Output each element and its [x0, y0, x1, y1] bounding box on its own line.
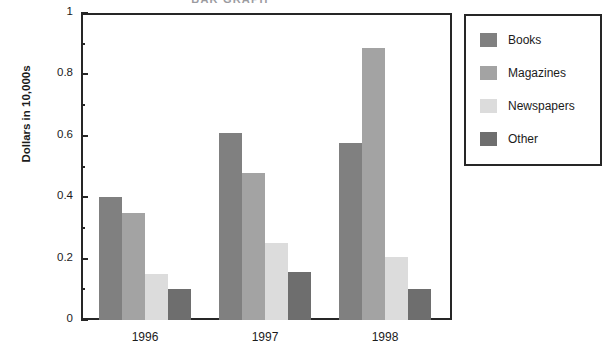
y-tick-label: 0.2	[29, 251, 73, 263]
bar	[219, 133, 242, 320]
y-tick-mark	[81, 258, 88, 260]
legend-item-label: Other	[508, 132, 538, 146]
y-axis-title: Dollars in 10,000s	[20, 34, 32, 194]
legend-swatch-icon	[480, 132, 497, 146]
bar	[99, 197, 122, 320]
legend-item-label: Magazines	[508, 66, 566, 80]
legend-item-label: Books	[508, 33, 541, 47]
y-tick-mark	[81, 166, 85, 168]
y-tick-label: 0.6	[29, 128, 73, 140]
y-tick-label: 1	[29, 5, 73, 17]
y-tick-label: 0.4	[29, 189, 73, 201]
bar	[242, 173, 265, 320]
y-tick-label: 0.8	[29, 66, 73, 78]
bar	[339, 143, 362, 320]
legend-item-magazines[interactable]: Magazines	[480, 65, 566, 81]
bar	[145, 274, 168, 320]
y-tick-mark	[81, 43, 85, 45]
y-tick-label: 0	[29, 312, 73, 324]
legend-item-newspapers[interactable]: Newspapers	[480, 98, 575, 114]
legend: BooksMagazinesNewspapersOther	[464, 14, 602, 166]
bar	[168, 289, 191, 320]
y-tick-mark	[81, 227, 85, 229]
x-axis-label: 1997	[225, 330, 305, 344]
bar	[362, 48, 385, 320]
bar-chart: BAR GRAPH Dollars in 10,000s 00.20.40.60…	[0, 0, 610, 362]
bar	[385, 257, 408, 320]
bar	[122, 213, 145, 320]
legend-swatch-icon	[480, 33, 497, 47]
legend-item-books[interactable]: Books	[480, 32, 541, 48]
bar	[265, 243, 288, 320]
y-tick-mark	[81, 104, 85, 106]
legend-swatch-icon	[480, 66, 497, 80]
y-tick-mark	[81, 319, 88, 321]
legend-swatch-icon	[480, 99, 497, 113]
y-tick-mark	[81, 73, 88, 75]
y-tick-mark	[81, 135, 88, 137]
legend-item-label: Newspapers	[508, 99, 575, 113]
y-tick-mark	[81, 196, 88, 198]
x-axis-label: 1996	[105, 330, 185, 344]
y-tick-mark	[81, 288, 85, 290]
bar	[288, 272, 311, 320]
bar	[408, 289, 431, 320]
legend-item-other[interactable]: Other	[480, 131, 538, 147]
plot-area: 00.20.40.60.81	[81, 13, 452, 320]
x-axis-label: 1998	[345, 330, 425, 344]
y-tick-mark	[81, 12, 88, 14]
